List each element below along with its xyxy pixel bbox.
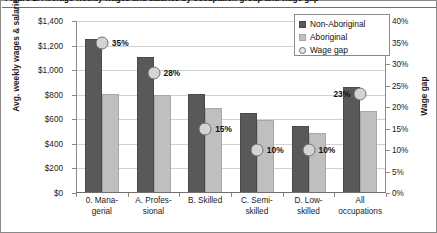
bar-non-aboriginal [292,126,309,193]
y-axis-right-tick-label: 10% [392,146,408,155]
y-axis-right-tick [386,172,390,173]
y-axis-right-tick-label: 40% [392,17,408,26]
chart-title: Figure 1: Average weekly wages and salar… [5,0,435,4]
y-axis-right-tick [386,64,390,65]
legend-item-wage-gap: Wage gap [299,44,385,56]
x-axis-category-line: skilled [283,207,335,218]
bar-non-aboriginal [85,39,102,193]
wage-gap-value-label: 10% [267,145,284,155]
legend-label: Aboriginal [310,32,347,42]
bar-aboriginal [154,95,171,193]
x-axis-category-line: 0. Mana- [76,196,128,207]
y-axis-right-tick-label: 25% [392,81,408,90]
y-axis-right-title: Wage gap [419,51,429,141]
x-axis-category-line: gerial [76,207,128,218]
y-axis-right-tick [386,129,390,130]
wage-gap-marker [250,144,263,157]
title-divider [2,7,437,8]
legend-circle-icon [299,47,306,54]
x-axis-category-line: C. Semi- [231,196,283,207]
bar-aboriginal [257,120,274,193]
y-axis-right-tick-label: 5% [392,167,404,176]
y-axis-left-tick [72,119,76,120]
gridline [76,168,386,169]
legend-swatch-icon [299,21,306,28]
y-axis-left-tick [72,95,76,96]
gridline [76,144,386,145]
x-axis-category-line: occupations [334,207,386,218]
x-axis-category-label: A. Profes-sional [128,196,180,217]
wage-gap-value-label: 35% [112,38,129,48]
x-axis-category-line: D. Low- [283,196,335,207]
x-axis-category-labels: 0. Mana-gerialA. Profes-sionalB. Skilled… [76,196,386,230]
x-axis-category-line: sional [128,207,180,218]
legend-label: Wage gap [310,45,348,55]
wage-gap-marker [199,122,212,135]
y-axis-left-line [76,21,77,193]
y-axis-left-tick [72,70,76,71]
wage-gap-marker [302,144,315,157]
y-axis-left-tick [72,168,76,169]
y-axis-left-tick [72,144,76,145]
y-axis-right-tick-label: 35% [392,38,408,47]
x-axis-category-label: 0. Mana-gerial [76,196,128,217]
legend-item-non-aboriginal: Non-Aboriginal [299,18,385,30]
bar-aboriginal [205,108,222,193]
y-axis-right-tick-label: 30% [392,60,408,69]
y-axis-left-tick [72,21,76,22]
y-axis-left-tick-label: $400 [45,139,63,148]
wage-gap-value-label: 15% [215,124,232,134]
y-axis-right-tick-label: 15% [392,124,408,133]
y-axis-left-tick-label: $800 [45,90,63,99]
bar-aboriginal [360,111,377,193]
bar-aboriginal [102,94,119,194]
y-axis-right-tick-label: 20% [392,103,408,112]
y-axis-left-tick-label: $200 [45,164,63,173]
y-axis-left-tick [72,46,76,47]
chart-legend: Non-Aboriginal Aboriginal Wage gap [294,14,390,56]
bar-aboriginal [309,133,326,193]
x-axis-tick [386,193,387,197]
gridline [76,119,386,120]
wage-gap-value-label: 28% [164,68,181,78]
y-axis-left-tick-label: $600 [45,115,63,124]
y-axis-left-tick-label: $1,200 [38,41,63,50]
wage-gap-value-label: 23% [333,89,350,99]
y-axis-left-title: Avg. weekly wages & salaries [11,0,21,133]
legend-label: Non-Aboriginal [310,19,365,29]
gridline [76,70,386,71]
y-axis-left-tick-label: $1,000 [38,66,63,75]
x-axis-category-line: All [334,196,386,207]
y-axis-right-tick-labels: 0%5%10%15%20%25%30%35%40% [392,21,422,193]
wage-gap-marker [95,36,108,49]
wage-gap-marker [354,88,367,101]
x-axis-category-label: B. Skilled [179,196,231,207]
x-axis-category-label: C. Semi-skilled [231,196,283,217]
y-axis-right-tick [386,150,390,151]
y-axis-right-tick [386,107,390,108]
x-axis-category-label: Alloccupations [334,196,386,217]
wage-gap-marker [147,66,160,79]
y-axis-right-tick-label: 0% [392,189,404,198]
legend-swatch-icon [299,34,306,41]
x-axis-category-line: A. Profes- [128,196,180,207]
bar-non-aboriginal [343,87,360,193]
y-axis-left-tick-label: $0 [54,189,63,198]
wage-gap-value-label: 10% [319,145,336,155]
y-axis-left-tick-label: $1,400 [38,17,63,26]
x-axis-category-label: D. Low-skilled [283,196,335,217]
y-axis-right-tick [386,86,390,87]
chart-container: Figure 1: Average weekly wages and salar… [0,0,437,233]
bar-non-aboriginal [188,94,205,193]
x-axis-category-line: B. Skilled [179,196,231,207]
legend-item-aboriginal: Aboriginal [299,31,385,43]
x-axis-category-line: skilled [231,207,283,218]
